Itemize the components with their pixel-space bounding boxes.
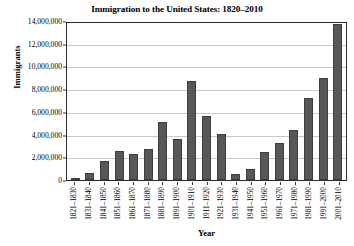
- x-tick-slot: 1831–1840: [82, 182, 97, 226]
- y-axis-tick-label: 12,000,000: [28, 41, 62, 49]
- bar: [187, 81, 196, 180]
- bar: [304, 98, 313, 180]
- bar-slot: [112, 23, 127, 180]
- x-tick-slot: 1851–1860: [111, 182, 126, 226]
- bar: [202, 116, 211, 180]
- bar-slot: [170, 23, 185, 180]
- bar: [129, 154, 138, 180]
- x-axis-tick-label: 1861–1870: [129, 187, 137, 220]
- x-tick-slot: 2001–2010: [331, 182, 346, 226]
- x-axis-tick-mark: [221, 182, 222, 185]
- x-axis-tick-label: 1871–1880: [144, 187, 152, 220]
- x-axis-tick-mark: [104, 182, 105, 185]
- x-tick-slot: 1841–1850: [96, 182, 111, 226]
- x-axis-tick-mark: [192, 182, 193, 185]
- x-tick-slot: 1961–1970: [273, 182, 288, 226]
- x-tick-slot: 1981–1990: [302, 182, 317, 226]
- x-axis-tick-label: 1931–1940: [232, 187, 240, 220]
- x-tick-slot: 1861–1870: [126, 182, 141, 226]
- x-axis-tick-label: 1851–1860: [114, 187, 122, 220]
- x-tick-slot: 1821–1830: [67, 182, 82, 226]
- bar: [246, 169, 255, 180]
- x-axis-tick-mark: [309, 182, 310, 185]
- bar: [333, 24, 342, 180]
- x-axis-tick-mark: [162, 182, 163, 185]
- x-tick-slot: 1921–1930: [214, 182, 229, 226]
- bar: [158, 122, 167, 180]
- bar: [289, 130, 298, 180]
- bar-slot: [330, 23, 345, 180]
- bar-slot: [126, 23, 141, 180]
- y-axis-tick-label: 8,000,000: [32, 86, 62, 94]
- x-axis-tick-label: 2001–2010: [335, 187, 343, 220]
- bar: [115, 151, 124, 180]
- x-axis-tick-label: 1901–1910: [188, 187, 196, 220]
- bar-slot: [316, 23, 331, 180]
- x-axis-tick-mark: [74, 182, 75, 185]
- x-axis-tick-label: 1911–1920: [203, 187, 211, 220]
- bar: [319, 78, 328, 180]
- bar-slot: [258, 23, 273, 180]
- bar-slot: [185, 23, 200, 180]
- x-tick-slot: 1931–1940: [229, 182, 244, 226]
- x-tick-slot: 1881–1890: [155, 182, 170, 226]
- bar-slot: [228, 23, 243, 180]
- y-axis-tick-label: 0: [58, 177, 62, 185]
- bar-slot: [272, 23, 287, 180]
- y-axis-tick-label: 6,000,000: [32, 109, 62, 117]
- x-axis-tick-mark: [177, 182, 178, 185]
- bar: [260, 152, 269, 180]
- bar: [173, 139, 182, 180]
- bar: [85, 173, 94, 180]
- x-axis-tick-label: 1921–1930: [217, 187, 225, 220]
- x-tick-slot: 1871–1880: [140, 182, 155, 226]
- x-tick-slot: 1971–1980: [287, 182, 302, 226]
- immigration-bar-chart: Immigration to the United States: 1820–2…: [0, 0, 354, 246]
- x-axis-tick-label: 1981–1990: [305, 187, 313, 220]
- x-axis-tick-label: 1991–2000: [320, 187, 328, 220]
- x-tick-slot: 1941–1950: [243, 182, 258, 226]
- x-axis-tick-mark: [207, 182, 208, 185]
- y-axis-tick-label: 10,000,000: [28, 63, 62, 71]
- x-axis-tick-label: 1881–1890: [158, 187, 166, 220]
- bar-slot: [214, 23, 229, 180]
- bar-series: [67, 23, 346, 180]
- bar-slot: [199, 23, 214, 180]
- bar-slot: [301, 23, 316, 180]
- y-axis-tick-label: 2,000,000: [32, 154, 62, 162]
- bar: [144, 149, 153, 180]
- bar-slot: [243, 23, 258, 180]
- x-axis-tick-label: 1821–1830: [70, 187, 78, 220]
- x-tick-slot: 1951–1960: [258, 182, 273, 226]
- bar-slot: [287, 23, 302, 180]
- bar: [71, 178, 80, 180]
- bar: [231, 174, 240, 180]
- x-axis-tick-mark: [295, 182, 296, 185]
- x-axis-tick-mark: [280, 182, 281, 185]
- plot-area: [66, 22, 347, 181]
- y-axis-tick-labels: 02,000,0004,000,0006,000,0008,000,00010,…: [0, 22, 66, 181]
- bar-slot: [141, 23, 156, 180]
- x-axis-tick-mark: [265, 182, 266, 185]
- bar: [275, 143, 284, 180]
- bar-slot: [155, 23, 170, 180]
- x-axis-title: Year: [66, 228, 347, 238]
- x-tick-slot: 1991–2000: [317, 182, 332, 226]
- x-axis-tick-label: 1951–1960: [261, 187, 269, 220]
- x-axis-tick-labels: 1821–18301831–18401841–18501851–18601861…: [66, 182, 347, 226]
- x-axis-tick-mark: [236, 182, 237, 185]
- y-axis-tick-label: 14,000,000: [28, 18, 62, 26]
- x-axis-tick-label: 1841–1850: [100, 187, 108, 220]
- x-axis-tick-label: 1971–1980: [291, 187, 299, 220]
- x-tick-slot: 1911–1920: [199, 182, 214, 226]
- x-axis-tick-mark: [148, 182, 149, 185]
- bar-slot: [97, 23, 112, 180]
- x-axis-tick-mark: [339, 182, 340, 185]
- x-axis-tick-label: 1941–1950: [247, 187, 255, 220]
- x-axis-tick-mark: [89, 182, 90, 185]
- x-axis-tick-label: 1831–1840: [85, 187, 93, 220]
- bar: [217, 134, 226, 180]
- chart-title: Immigration to the United States: 1820–2…: [0, 4, 354, 14]
- x-axis-tick-label: 1891–1900: [173, 187, 181, 220]
- bar-slot: [68, 23, 83, 180]
